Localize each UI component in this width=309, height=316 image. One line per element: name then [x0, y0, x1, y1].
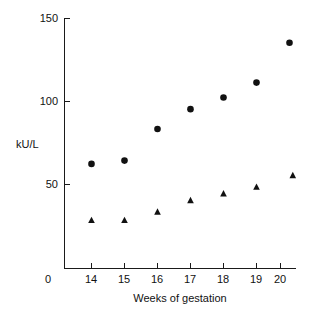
- data-markers: [88, 39, 296, 223]
- data-point-triangle: [154, 208, 161, 214]
- data-point-triangle: [121, 217, 128, 223]
- data-point-circle: [88, 161, 95, 168]
- data-point-circle: [286, 39, 293, 46]
- data-point-circle: [253, 79, 260, 86]
- y-axis-title: kU/L: [16, 138, 39, 150]
- x-tick-label-17: 17: [184, 273, 196, 285]
- x-tick-label-19: 19: [250, 273, 262, 285]
- data-point-triangle: [253, 183, 260, 189]
- x-axis-title: Weeks of gestation: [133, 292, 226, 304]
- x-tick-label-15: 15: [118, 273, 130, 285]
- data-point-circle: [220, 94, 227, 101]
- data-point-triangle: [88, 217, 95, 223]
- y-tick-label-50: 50: [46, 178, 58, 190]
- x-tick-label-16: 16: [151, 273, 163, 285]
- scatter-plot: 150 100 50 kU/L 0 14 15 16 17 18 19 20 W…: [0, 0, 309, 316]
- x-origin-label: 0: [45, 273, 51, 285]
- data-point-triangle: [290, 172, 297, 178]
- data-point-circle: [154, 126, 161, 133]
- x-tick-label-18: 18: [217, 273, 229, 285]
- y-tick-label-150: 150: [40, 12, 58, 24]
- data-point-triangle: [220, 190, 227, 196]
- x-tick-label-14: 14: [85, 273, 97, 285]
- data-point-triangle: [187, 197, 194, 203]
- y-tick-label-100: 100: [40, 95, 58, 107]
- y-axis-ticks: [65, 19, 71, 185]
- data-point-circle: [187, 106, 194, 113]
- chart-figure: 150 100 50 kU/L 0 14 15 16 17 18 19 20 W…: [0, 0, 309, 316]
- data-point-circle: [121, 157, 128, 164]
- x-tick-label-20: 20: [274, 273, 286, 285]
- x-axis-ticks: [92, 263, 281, 269]
